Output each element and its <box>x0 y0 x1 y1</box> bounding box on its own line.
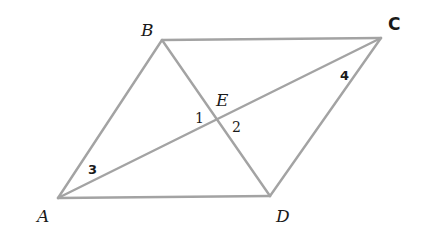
parallelogram-diagram: A B C D E 1 2 3 4 <box>0 0 424 239</box>
angle-label-4: 4 <box>340 68 349 83</box>
side-cd <box>270 38 381 196</box>
angle-label-2: 2 <box>232 119 241 135</box>
angle-label-3: 3 <box>88 162 97 177</box>
side-bc <box>162 38 381 40</box>
side-ab <box>58 40 162 198</box>
angle-label-1: 1 <box>195 110 204 126</box>
diagonals <box>58 38 381 198</box>
intersection-label-e: E <box>215 90 229 110</box>
vertex-label-d: D <box>275 206 290 226</box>
diagonal-bd <box>162 40 270 196</box>
vertex-label-c: C <box>388 14 400 34</box>
side-da <box>58 196 270 198</box>
diagonal-ac <box>58 38 381 198</box>
vertex-label-a: A <box>35 206 49 226</box>
vertex-label-b: B <box>140 20 154 40</box>
